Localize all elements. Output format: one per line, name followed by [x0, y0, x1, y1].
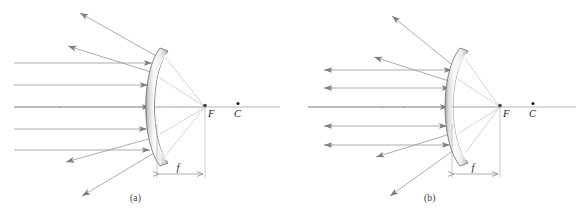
dotted-converging-rays-a [157, 58, 204, 155]
panel-caption-b: (b) [424, 193, 436, 203]
center-point-a [237, 102, 240, 105]
center-label-b: C [529, 108, 537, 119]
dimension-extension-lines-a [157, 104, 205, 178]
panel-a: F C f [14, 13, 280, 196]
focus-label-b: F [502, 108, 510, 119]
figure-container: F C f [0, 0, 588, 216]
dotted-converging-rays-b [452, 60, 499, 152]
panel-caption-a: (a) [130, 193, 141, 203]
reflected-rays-a [66, 13, 158, 196]
center-label-a: C [234, 108, 242, 119]
focus-label-a: F [207, 108, 215, 119]
panel-b: F C f [308, 16, 576, 196]
dimension-extension-lines-b [452, 104, 500, 178]
focal-length-label-b: f [472, 162, 477, 173]
center-point-b [532, 102, 535, 105]
incident-rays-b [308, 70, 452, 145]
incident-ray-origin-arrows-b [324, 70, 333, 145]
incident-rays-a [14, 63, 152, 150]
mirror-ray-diagram: F C f [0, 0, 588, 216]
reflected-rays-b [374, 16, 456, 196]
focal-length-label-a: f [177, 162, 182, 173]
